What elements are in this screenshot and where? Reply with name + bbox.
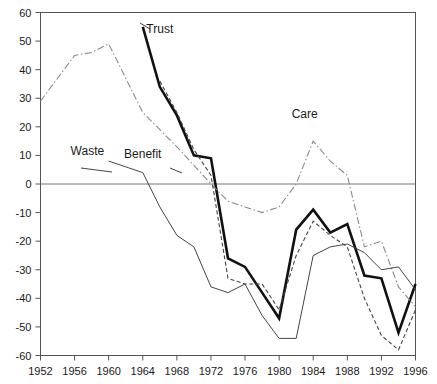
series-label-waste: Waste (71, 144, 105, 158)
y-tick-label: -50 (16, 321, 32, 333)
y-tick-label: 10 (19, 149, 31, 161)
series-label-benefit: Benefit (124, 147, 162, 161)
y-tick-label: 40 (19, 64, 31, 76)
line-chart: 6050403020100-10-20-30-40-50-60 19521956… (0, 0, 437, 384)
x-tick-label: 1996 (403, 365, 427, 377)
y-tick-label: -40 (16, 292, 32, 304)
y-tick-label: 0 (25, 178, 31, 190)
x-axis-ticks (41, 356, 416, 361)
x-tick-label: 1964 (131, 365, 155, 377)
x-tick-label: 1980 (267, 365, 291, 377)
x-tick-label: 1976 (233, 365, 257, 377)
x-tick-label: 1972 (199, 365, 223, 377)
x-tick-label: 1992 (369, 365, 393, 377)
series-label-care: Care (292, 107, 318, 121)
y-tick-label: -20 (16, 235, 32, 247)
x-tick-label: 1952 (28, 365, 52, 377)
y-axis-ticks (36, 13, 41, 356)
x-tick-label: 1960 (96, 365, 120, 377)
y-tick-label: -10 (16, 207, 32, 219)
series-line-waste (109, 161, 416, 338)
x-tick-label: 1988 (335, 365, 359, 377)
series-line-trust (143, 27, 416, 333)
y-tick-label: 50 (19, 35, 31, 47)
y-tick-label: 60 (19, 7, 31, 19)
x-tick-label: 1968 (165, 365, 189, 377)
series-label-trust: Trust (146, 22, 174, 36)
y-tick-label: -30 (16, 264, 32, 276)
y-tick-label: 30 (19, 92, 31, 104)
data-series-group (41, 27, 416, 350)
y-tick-label: -60 (16, 350, 32, 362)
plot-area: 6050403020100-10-20-30-40-50-60 19521956… (0, 0, 437, 384)
y-tick-label: 20 (19, 121, 31, 133)
x-tick-label: 1984 (301, 365, 325, 377)
x-tick-label: 1956 (62, 365, 86, 377)
series-line-care (41, 44, 416, 307)
y-axis-tick-labels: 6050403020100-10-20-30-40-50-60 (16, 7, 32, 362)
series-line-benefit (160, 81, 416, 350)
series-inline-labels: TrustCareWasteBenefit (71, 22, 318, 162)
x-axis-tick-labels: 1952195619601964196819721976198019841988… (28, 365, 427, 377)
